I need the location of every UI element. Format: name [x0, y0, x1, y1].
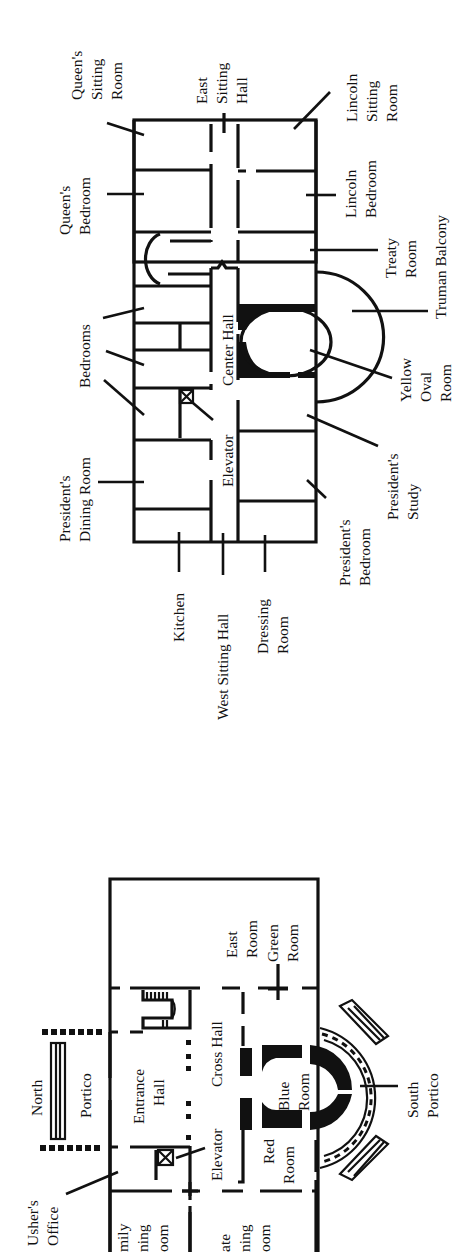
wall	[134, 440, 211, 460]
label-queens-bedroom: Queen's Bedroom	[56, 177, 93, 235]
elevator-x	[180, 390, 193, 403]
label-entrance-hall: Entrance Hall	[130, 1065, 167, 1124]
label-bedrooms: Bedrooms	[76, 324, 93, 388]
leader-bedroom-3	[104, 380, 144, 415]
north-portico-dashes-bottom	[40, 1145, 100, 1151]
blue-room-arc-bottom	[310, 1094, 352, 1130]
pillar	[240, 1098, 252, 1130]
leader-bedroom-1	[103, 308, 144, 318]
blue-room-wall-top	[262, 1045, 302, 1072]
label-family-dining-room: mily ning oom	[114, 1220, 171, 1252]
label-east-room: East Room	[223, 920, 260, 958]
label-center-hall: Center Hall	[219, 314, 236, 386]
label-west-sitting-hall: West Sitting Hall	[214, 614, 231, 720]
pillar	[240, 1048, 252, 1076]
label-presidents-study: President's Study	[384, 450, 421, 520]
north-portico-steps-lines	[56, 1043, 60, 1139]
leader-lincoln-sitting	[294, 92, 330, 129]
label-lincoln-bedroom: Lincoln Bedroom	[342, 160, 379, 218]
leader-study	[307, 415, 378, 446]
outer-wall-top	[134, 120, 316, 262]
wall	[238, 1130, 243, 1182]
leader-bedroom-2	[106, 351, 144, 365]
label-queens-sitting-room: Queen's Sitting Room	[68, 47, 125, 100]
label-north: North	[28, 1080, 45, 1116]
elevator-x	[158, 1150, 173, 1165]
label-cross-hall: Cross Hall	[208, 1021, 225, 1087]
cross-tick	[182, 1182, 198, 1200]
label-lincoln-sitting-room: Lincoln Sitting Room	[343, 70, 400, 122]
entrance-hall-columns	[186, 1040, 191, 1140]
label-dressing-room: Dressing Room	[254, 595, 291, 654]
label-elevator: Elevator	[208, 1128, 225, 1181]
label-ushers-office: Usher's Office	[24, 1196, 61, 1246]
truman-balcony-arc	[316, 272, 384, 402]
stair-lines	[168, 241, 211, 274]
wall	[134, 480, 211, 542]
label-treaty-room: Treaty Room	[382, 234, 419, 278]
label-blue-room: Blue Room	[275, 1073, 312, 1111]
label-green-room: Green Room	[264, 920, 301, 962]
label-kitchen: Kitchen	[170, 593, 187, 642]
label-elevator: Elevator	[219, 434, 236, 487]
floor-plan-diagram: Queen's Sitting Room Queen's Bedroom Bed…	[0, 0, 474, 1252]
label-presidents-bedroom: President's Bedroom	[336, 516, 373, 586]
north-portico-dashes-top	[42, 1029, 102, 1035]
label-yellow-oval-room: Yellow Oval Room	[397, 354, 454, 402]
label-east-sitting-hall: East Sitting Hall	[193, 59, 250, 104]
elevator-leader	[193, 403, 213, 420]
label-state-dining-room: ate ning oom	[216, 1221, 273, 1252]
stair-curve	[145, 234, 160, 284]
label-red-room: Red Room	[260, 1135, 297, 1184]
north-portico-steps	[51, 1043, 65, 1139]
label-truman-balcony: Truman Balcony	[432, 215, 449, 319]
south-portico-steps-top	[340, 1000, 388, 1044]
label-portico: Portico	[77, 1073, 94, 1118]
second-floor-labels: Queen's Sitting Room Queen's Bedroom Bed…	[56, 47, 454, 720]
leader-queens-sitting	[107, 123, 144, 135]
label-presidents-dining-room: President's Dining Room	[56, 457, 93, 542]
green-room-tick	[268, 964, 288, 1000]
label-south-portico: South Portico	[404, 1073, 441, 1118]
